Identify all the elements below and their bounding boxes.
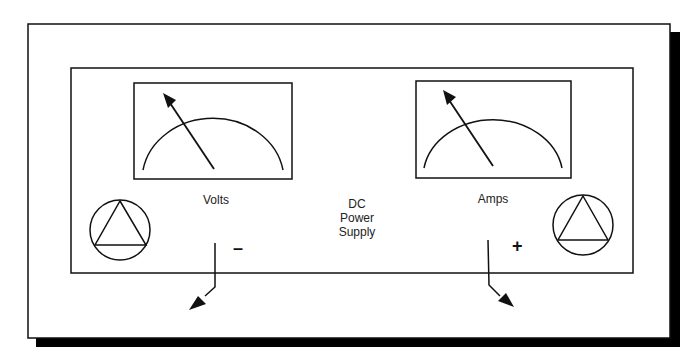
right-knob-icon[interactable] <box>553 195 613 255</box>
title-line-3: Supply <box>322 225 392 239</box>
amps-label: Amps <box>463 192 523 206</box>
power-supply-diagram <box>0 0 700 358</box>
volts-label: Volts <box>186 193 246 207</box>
title-line-1: DC <box>322 197 392 211</box>
title-line-2: Power <box>322 211 392 225</box>
device-title: DC Power Supply <box>322 197 392 239</box>
volts-meter <box>134 83 292 179</box>
negative-terminal-sign: – <box>233 238 243 259</box>
left-knob-icon[interactable] <box>90 200 150 260</box>
amps-meter <box>416 81 571 178</box>
positive-terminal-sign: + <box>512 236 523 257</box>
